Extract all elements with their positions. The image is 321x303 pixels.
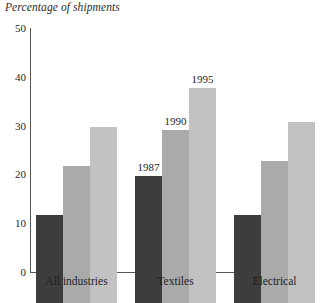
bar-column <box>63 59 90 303</box>
y-axis-tick-label: 0 <box>21 267 27 278</box>
bar-column <box>288 59 315 303</box>
bar <box>234 215 261 303</box>
bar-column: 1990 <box>162 59 189 303</box>
bar-value-label: 1990 <box>165 116 187 127</box>
bar-group: 198719901995 <box>135 59 216 303</box>
y-axis-tick-label: 30 <box>15 120 26 131</box>
x-axis-category-label: Textiles <box>157 276 193 288</box>
y-axis-tick-label: 20 <box>15 169 26 180</box>
bar-column: 1987 <box>135 59 162 303</box>
y-axis-line <box>30 28 31 273</box>
bar-column <box>234 59 261 303</box>
y-axis-tick-label: 50 <box>15 23 26 34</box>
bar-group <box>36 59 117 303</box>
x-axis-category-label: Electrical <box>252 276 296 288</box>
x-axis-category-label: All industries <box>45 276 107 288</box>
bar-group <box>234 59 315 303</box>
bar-column: 1995 <box>189 59 216 303</box>
chart-title: Percentage of shipments <box>5 1 120 13</box>
bar-column <box>261 59 288 303</box>
bar-value-label: 1987 <box>138 162 160 173</box>
bar <box>189 88 216 303</box>
y-axis-tick-label: 40 <box>15 71 26 82</box>
bar-chart: Percentage of shipments 01020304050 1987… <box>0 0 321 303</box>
y-axis-tick-label: 10 <box>15 218 26 229</box>
bar <box>36 215 63 303</box>
bar-value-label: 1995 <box>192 74 214 85</box>
bar-column <box>90 59 117 303</box>
bar-column <box>36 59 63 303</box>
